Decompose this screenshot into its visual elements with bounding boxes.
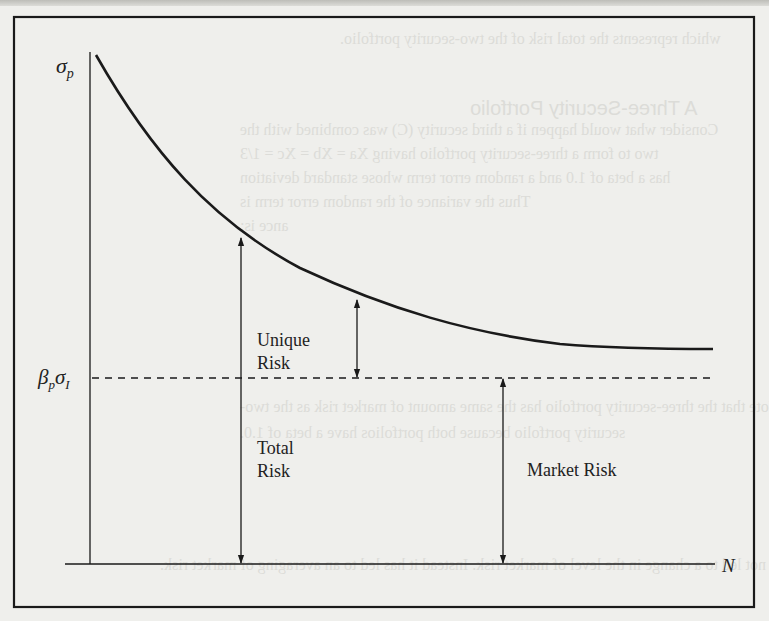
total-risk-curve (96, 55, 713, 349)
y-axis-label: σp (56, 53, 74, 81)
market-risk-level-label: βpσI (37, 365, 70, 392)
unique-risk-label-line1: Unique (257, 330, 310, 350)
market-risk-label: Market Risk (527, 460, 617, 480)
unique-risk-label-line2: Risk (257, 353, 290, 373)
figure-frame (14, 17, 754, 607)
total-risk-label-line2: Risk (257, 461, 290, 481)
total-risk-label-line1: Total (257, 438, 294, 458)
risk-diversification-diagram: σp N βpσI Unique Risk Total Risk Market … (0, 0, 769, 621)
x-axis-label: N (721, 555, 736, 576)
